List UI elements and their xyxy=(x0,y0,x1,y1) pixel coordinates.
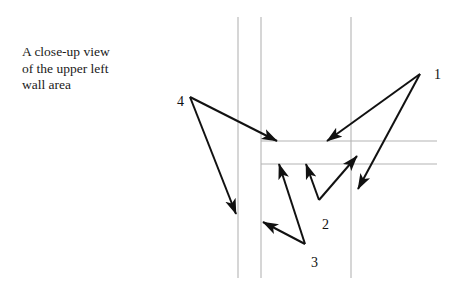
callout-4-arrow-b xyxy=(190,97,236,214)
wall-diagram xyxy=(0,0,455,290)
callout-label-2: 2 xyxy=(322,218,329,232)
callout-label-1: 1 xyxy=(434,68,441,82)
figure-canvas: A close-up view of the upper left wall a… xyxy=(0,0,455,290)
callout-label-4: 4 xyxy=(177,95,184,109)
callout-arrows-group xyxy=(190,74,420,244)
callout-2-arrow-a xyxy=(306,164,319,200)
wall-horizontal-lines-group xyxy=(261,141,437,164)
callout-1-arrow-a xyxy=(327,74,420,141)
callout-1-arrow-b xyxy=(358,74,420,189)
callout-label-3: 3 xyxy=(311,256,318,270)
callout-4-arrow-a xyxy=(190,97,277,141)
